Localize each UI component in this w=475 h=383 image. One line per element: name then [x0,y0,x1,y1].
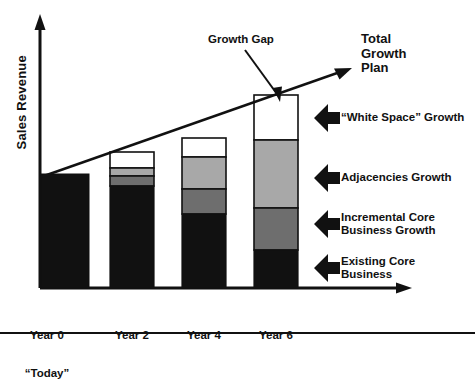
growth-gap-leader [245,50,282,102]
total-growth-plan-annotation: Total Growth Plan [361,32,407,76]
callout-label-existing-core-business: Existing Core Business [341,255,415,281]
trend-line-arrowhead [334,68,352,80]
bar-segment-incremental-core [110,176,154,186]
callout-arrow-existing-core [314,254,340,282]
x-tick-year-0-label: Year 0 [4,329,90,342]
callout-label-incremental-core-business-growth: Incremental Core Business Growth [341,211,436,237]
y-axis-arrowhead [35,14,46,30]
x-tick-year-0: Year 0 “Today” [4,303,90,383]
callout-arrow-white-space [314,104,340,132]
bar-segment-white-space [182,138,226,157]
bar-year-6 [254,95,298,288]
growth-gap-annotation: Growth Gap [208,33,274,46]
bar-segment-existing-core [41,174,89,288]
bar-year-4 [182,138,226,288]
callout-label-white-space-growth: “White Space” Growth [341,111,464,124]
bar-segment-adjacencies [110,168,154,176]
bar-segment-existing-core [110,186,154,288]
bar-segment-adjacencies [182,157,226,189]
x-tick-year-6-label: Year 6 [233,329,319,342]
callout-arrow-incremental-core [314,210,340,238]
bar-segment-existing-core [182,214,226,288]
bar-segment-white-space [254,95,298,140]
x-tick-year-6: Year 6 [233,303,319,367]
bar-segment-white-space [110,152,154,168]
growth-gap-leader-shaft [245,50,277,94]
bar-segment-adjacencies [254,140,298,208]
bar-segment-incremental-core [254,208,298,250]
x-axis-arrowhead [396,283,412,294]
bar-segment-incremental-core [182,189,226,214]
callout-label-adjacencies-growth: Adjacencies Growth [341,171,452,184]
bar-year-0 [41,174,89,288]
y-axis-label: Sales Revenue [15,32,30,172]
callout-arrow-adjacencies [314,164,340,192]
bar-segment-existing-core [254,250,298,288]
bar-year-2 [110,152,154,288]
x-tick-year-0-sublabel: “Today” [4,367,90,380]
